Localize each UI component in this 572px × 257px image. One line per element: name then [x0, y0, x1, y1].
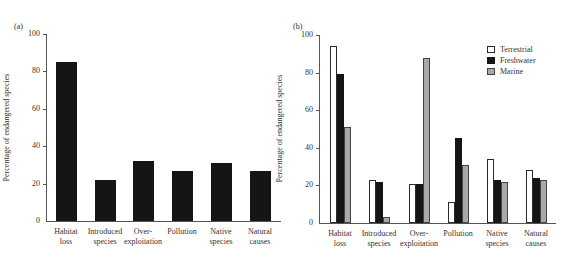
x-axis: [46, 221, 281, 222]
bar-marine-pollution: [462, 165, 469, 223]
bar-introduced-species: [95, 180, 116, 221]
y-tick-label: 80: [293, 68, 313, 77]
legend-swatch-marine: [487, 68, 495, 75]
y-tick-label: 100: [20, 29, 40, 38]
bar-marine-introduced-species: [383, 217, 390, 223]
y-tick-label: 80: [20, 66, 40, 75]
x-axis: [319, 223, 556, 224]
bar-freshwater-over-exploitation: [416, 184, 423, 223]
y-tick-label: 60: [293, 105, 313, 114]
y-tick-label: 0: [293, 218, 313, 227]
legend: TerrestrialFreshwaterMarine: [487, 44, 536, 77]
y-axis-label: Percentage of endangered species: [275, 69, 284, 189]
legend-label: Freshwater: [500, 56, 536, 65]
legend-swatch-terrestrial: [487, 46, 495, 53]
x-category-label: Naturalcauses: [511, 229, 561, 249]
y-tick: [316, 185, 319, 186]
bar-over-exploitation: [133, 161, 154, 221]
x-category-label: Naturalcauses: [235, 227, 285, 247]
x-category-line: Natural: [235, 227, 285, 237]
y-tick: [43, 34, 46, 35]
y-tick: [43, 184, 46, 185]
bar-natural-causes: [250, 171, 271, 221]
y-tick-label: 60: [20, 104, 40, 113]
bar-terrestrial-natural-causes: [526, 170, 533, 223]
bar-terrestrial-native-species: [487, 159, 494, 223]
bar-marine-habitat-loss: [344, 127, 351, 223]
y-tick: [316, 148, 319, 149]
y-tick: [316, 110, 319, 111]
y-tick: [316, 35, 319, 36]
y-axis: [46, 34, 47, 222]
bar-terrestrial-habitat-loss: [330, 46, 337, 223]
y-tick-label: 0: [20, 216, 40, 225]
bar-native-species: [211, 163, 232, 221]
legend-label: Marine: [500, 67, 523, 76]
y-tick-label: 100: [293, 30, 313, 39]
legend-item-terrestrial: Terrestrial: [487, 44, 536, 55]
bar-terrestrial-pollution: [448, 202, 455, 223]
y-tick: [43, 109, 46, 110]
y-tick-label: 20: [20, 179, 40, 188]
x-category-line: Natural: [511, 229, 561, 239]
y-axis: [319, 35, 320, 224]
legend-item-marine: Marine: [487, 66, 536, 77]
y-tick: [316, 73, 319, 74]
bar-freshwater-native-species: [494, 180, 501, 223]
bar-marine-over-exploitation: [423, 58, 430, 223]
bar-marine-native-species: [501, 182, 508, 223]
y-axis-label: Percentage of endangered species: [2, 67, 11, 187]
bar-freshwater-natural-causes: [533, 178, 540, 223]
bar-terrestrial-over-exploitation: [409, 184, 416, 223]
y-tick: [43, 146, 46, 147]
y-tick-label: 20: [293, 180, 313, 189]
bar-freshwater-pollution: [455, 138, 462, 223]
bar-marine-natural-causes: [540, 180, 547, 223]
bar-freshwater-introduced-species: [376, 182, 383, 223]
bar-habitat-loss: [56, 62, 77, 221]
bar-pollution: [172, 171, 193, 221]
bar-freshwater-habitat-loss: [337, 74, 344, 223]
y-tick-label: 40: [20, 141, 40, 150]
y-tick-label: 40: [293, 143, 313, 152]
x-category-line: causes: [235, 237, 285, 247]
legend-item-freshwater: Freshwater: [487, 55, 536, 66]
bar-terrestrial-introduced-species: [369, 180, 376, 223]
x-category-line: causes: [511, 239, 561, 249]
legend-swatch-freshwater: [487, 57, 495, 64]
y-tick: [43, 71, 46, 72]
legend-label: Terrestrial: [500, 45, 533, 54]
